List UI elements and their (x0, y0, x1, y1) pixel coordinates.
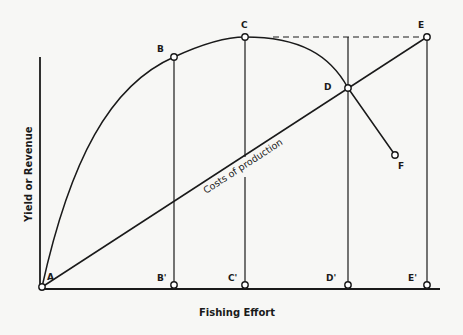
label-a: A (47, 272, 54, 282)
yield-curve (42, 37, 395, 287)
point-d-prime (345, 282, 351, 288)
point-b (171, 54, 177, 60)
label-d: D (324, 82, 331, 92)
label-b: B (157, 44, 164, 54)
cost-line-label: Costs of production (201, 136, 284, 195)
label-b-prime: B' (157, 273, 167, 283)
label-f: F (398, 161, 404, 171)
label-d-prime: D' (326, 273, 336, 283)
point-e-prime (424, 282, 430, 288)
fishing-effort-diagram: Costs of production A B C D E F B' C' D'… (0, 0, 463, 335)
point-a (39, 284, 45, 290)
point-b-prime (171, 282, 177, 288)
point-d (345, 85, 351, 91)
point-c (242, 34, 248, 40)
label-c: C (241, 20, 248, 30)
y-axis-title: Yield or Revenue (23, 126, 34, 223)
label-e: E (418, 20, 424, 30)
label-c-prime: C' (228, 273, 237, 283)
point-f (392, 152, 398, 158)
point-e (424, 34, 430, 40)
cost-line (42, 37, 427, 287)
label-e-prime: E' (408, 273, 417, 283)
x-axis-title: Fishing Effort (199, 307, 275, 318)
point-c-prime (242, 282, 248, 288)
